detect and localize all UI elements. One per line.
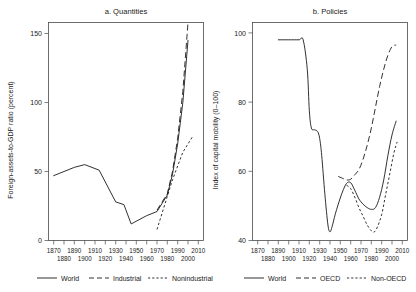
panel-a-xtick-label-1930: 1930: [109, 247, 124, 254]
panel-b-y-axis-label: Index of capital mobility (0–100): [212, 91, 220, 190]
panel-b-ytick-label-100: 100: [234, 30, 246, 37]
panel-b-title: b. Policies: [313, 7, 348, 16]
legend-a-label-industrial: Industrial: [113, 275, 142, 282]
panel-b-xtick-label-1940: 1940: [323, 255, 338, 262]
panel-b-xtick-label-1950: 1950: [333, 247, 348, 254]
panel-b-xtick-label-2000: 2000: [385, 255, 400, 262]
panel-a-y-ticks: 0 50 100 150: [30, 30, 48, 244]
panel-b-xtick-label-1910: 1910: [292, 247, 307, 254]
panel-a-quantities: a. Quantities Foreign-assets-to-GDP rati…: [7, 7, 206, 262]
panel-a-ytick-label-150: 150: [30, 30, 42, 37]
panel-b-xtick-label-1990: 1990: [375, 247, 390, 254]
panel-a-ytick-label-0: 0: [38, 237, 42, 244]
panel-b-xtick-label-1920: 1920: [302, 255, 317, 262]
panel-a-xtick-label-1900: 1900: [78, 255, 93, 262]
legend-panel-b: World OECD Non-OECD: [244, 275, 406, 282]
legend-b-label-world: World: [268, 275, 286, 282]
panel-a-xtick-label-1870: 1870: [47, 247, 62, 254]
panel-b-xtick-label-1890: 1890: [271, 247, 286, 254]
chart-svg: a. Quantities Foreign-assets-to-GDP rati…: [0, 0, 416, 292]
panel-b-xtick-label-1970: 1970: [354, 247, 369, 254]
panel-a-xtick-label-2000: 2000: [181, 255, 196, 262]
panel-a-xtick-label-1940: 1940: [119, 255, 134, 262]
panel-a-xtick-label-1980: 1980: [160, 255, 175, 262]
legend-panel-a: World Industrial Nonindustrial: [37, 275, 213, 282]
figure-container: a. Quantities Foreign-assets-to-GDP rati…: [0, 0, 416, 292]
panel-b-ytick-label-60: 60: [238, 168, 246, 175]
panel-a-xtick-label-1910: 1910: [88, 247, 103, 254]
panel-b-y-ticks: 40 60 80 100: [234, 30, 252, 244]
panel-b-ytick-label-80: 80: [238, 99, 246, 106]
panel-a-xtick-label-1960: 1960: [140, 255, 155, 262]
panel-b-policies: b. Policies Index of capital mobility (0…: [212, 7, 410, 262]
panel-b-plot-frame: [253, 23, 408, 241]
panel-b-series: [278, 38, 397, 233]
panel-b-xtick-label-1930: 1930: [313, 247, 328, 254]
panel-a-series-world: [54, 40, 188, 224]
panel-b-series-world: [278, 38, 396, 232]
panel-b-xtick-label-1900: 1900: [282, 255, 297, 262]
panel-a-xtick-label-1890: 1890: [67, 247, 82, 254]
panel-a-series-nonindustrial: [157, 136, 193, 230]
panel-a-x-ticks: 1870 1890 1910 1930 1950 1970 1990 2010 …: [47, 241, 206, 263]
panel-b-x-ticks: 1870 1890 1910 1930 1950 1970 1990 2010 …: [251, 241, 410, 263]
legend-a-label-world: World: [61, 275, 79, 282]
panel-a-y-axis-label: Foreign-assets-to-GDP ratio (percent): [7, 81, 15, 198]
panel-a-title: a. Quantities: [105, 7, 148, 16]
panel-b-xtick-label-1960: 1960: [344, 255, 359, 262]
panel-a-xtick-label-1950: 1950: [129, 247, 144, 254]
legend-b-label-non-oecd: Non-OECD: [371, 275, 406, 282]
panel-a-xtick-label-1990: 1990: [171, 247, 186, 254]
panel-a-series-industrial: [157, 23, 188, 211]
panel-a-xtick-label-1920: 1920: [98, 255, 113, 262]
panel-a-xtick-label-1880: 1880: [57, 255, 72, 262]
legend-a-label-nonindustrial: Nonindustrial: [172, 275, 213, 282]
panel-a-series: [54, 23, 194, 230]
legend-b-label-oecd: OECD: [320, 275, 340, 282]
panel-b-series-non-oecd: [347, 142, 398, 232]
panel-a-plot-frame: [49, 23, 204, 241]
panel-b-xtick-label-1870: 1870: [251, 247, 266, 254]
panel-a-ytick-label-50: 50: [34, 168, 42, 175]
panel-b-ytick-label-40: 40: [238, 237, 246, 244]
panel-a-ytick-label-100: 100: [30, 99, 42, 106]
panel-b-xtick-label-2010: 2010: [395, 247, 410, 254]
panel-a-xtick-label-2010: 2010: [191, 247, 206, 254]
panel-b-xtick-label-1980: 1980: [364, 255, 379, 262]
panel-b-xtick-label-1880: 1880: [261, 255, 276, 262]
panel-a-xtick-label-1970: 1970: [150, 247, 165, 254]
